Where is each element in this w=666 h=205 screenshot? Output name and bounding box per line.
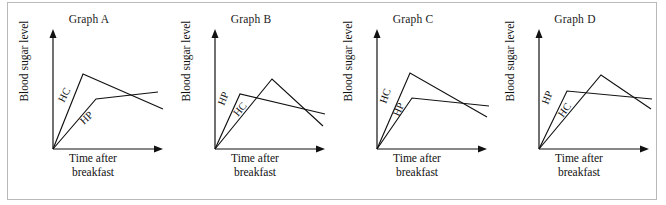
- y-axis-arrow-d: [536, 29, 543, 38]
- series-label-hp-a: HP: [78, 109, 95, 126]
- graph-svg-c: HC HP: [332, 3, 494, 201]
- x-axis-arrow-c: [478, 146, 487, 153]
- series-label-hc-d: HC: [556, 101, 573, 119]
- x-axis-arrow-a: [154, 146, 163, 153]
- y-axis-arrow-a: [50, 29, 57, 38]
- curve-hc-a: [53, 74, 163, 149]
- series-label-hp-c: HP: [391, 101, 407, 118]
- graph-panel-row: Graph A Blood sugar level Time after bre…: [8, 3, 656, 199]
- axes-b: [212, 29, 326, 153]
- graph-panel-a: Graph A Blood sugar level Time after bre…: [8, 3, 170, 201]
- graph-svg-d: HC HP: [494, 3, 656, 201]
- graph-svg-b: HC HP: [170, 3, 332, 201]
- graph-svg-a: HC HP: [8, 3, 170, 201]
- curve-hp-a: [53, 92, 158, 149]
- series-label-hp-d: HP: [540, 89, 555, 106]
- series-label-hc-a: HC: [56, 86, 72, 104]
- series-label-hp-b: HP: [216, 90, 231, 107]
- curve-hp-b: [215, 94, 325, 149]
- y-axis-arrow-c: [374, 29, 381, 38]
- y-axis-arrow-b: [212, 29, 219, 38]
- curves-b: [215, 79, 325, 149]
- x-axis-arrow-b: [316, 146, 325, 153]
- curves-a: [53, 74, 163, 149]
- series-label-hc-c: HC: [378, 87, 393, 104]
- graph-panel-c: Graph C Blood sugar level Time after bre…: [332, 3, 494, 201]
- figure-frame: Graph A Blood sugar level Time after bre…: [7, 2, 657, 200]
- x-axis-arrow-d: [640, 146, 649, 153]
- series-label-hc-b: HC: [231, 100, 249, 118]
- graph-panel-b: Graph B Blood sugar level Time after bre…: [170, 3, 332, 201]
- graph-panel-d: Graph D Blood sugar level Time after bre…: [494, 3, 656, 201]
- curve-hp-d: [539, 91, 652, 149]
- axes-d: [536, 29, 650, 153]
